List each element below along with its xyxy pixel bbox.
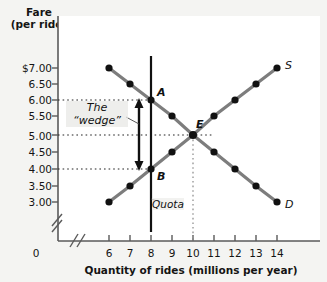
chart-figure: Fare (per ride) Quantity of rides (milli… xyxy=(0,0,327,282)
point-label-b: B xyxy=(157,170,165,183)
plot-area xyxy=(0,0,327,282)
wedge-label-line2: “wedge” xyxy=(73,114,121,127)
point-label-e: E xyxy=(196,118,204,131)
wedge-annotation: The “wedge” xyxy=(66,101,128,127)
y-axis-ticks xyxy=(52,68,58,202)
wedge-label-line1: The xyxy=(87,101,107,114)
supply-curve-label: S xyxy=(285,59,292,72)
point-label-a: A xyxy=(157,86,166,99)
demand-curve-label: D xyxy=(285,198,293,211)
plot-background xyxy=(58,16,320,241)
equilibrium-point-marker xyxy=(189,131,197,139)
quota-annotation: Quota xyxy=(152,198,184,210)
